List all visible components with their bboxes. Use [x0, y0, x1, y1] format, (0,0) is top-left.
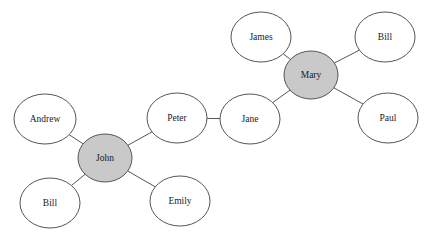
node-label-paul: Paul — [380, 113, 397, 123]
node-label-mary: Mary — [301, 70, 322, 80]
edge-james-mary — [283, 54, 290, 60]
node-james[interactable]: James — [231, 12, 291, 62]
network-graph: JamesBillMaryPaulJanePeterAndrewJohnBill… — [0, 0, 428, 240]
node-paul[interactable]: Paul — [358, 93, 418, 143]
node-label-peter: Peter — [167, 113, 187, 123]
node-jane[interactable]: Jane — [220, 94, 280, 144]
edge-bill_tr-mary — [334, 50, 359, 63]
node-john[interactable]: John — [78, 134, 132, 182]
node-andrew[interactable]: Andrew — [14, 94, 76, 144]
edge-andrew-john — [69, 135, 83, 144]
edge-john-bill_bl — [71, 174, 85, 185]
node-mary[interactable]: Mary — [284, 51, 338, 99]
node-bill_bl[interactable]: Bill — [20, 178, 80, 228]
node-peter[interactable]: Peter — [147, 93, 207, 143]
node-emily[interactable]: Emily — [150, 176, 210, 226]
node-bill_tr[interactable]: Bill — [355, 12, 415, 62]
node-label-bill_bl: Bill — [43, 198, 58, 208]
node-label-james: James — [249, 32, 273, 42]
nodes-layer: JamesBillMaryPaulJanePeterAndrewJohnBill… — [14, 12, 418, 228]
network-diagram-canvas: JamesBillMaryPaulJanePeterAndrewJohnBill… — [0, 0, 428, 240]
node-label-andrew: Andrew — [30, 114, 61, 124]
edge-john-emily — [128, 171, 156, 187]
node-label-jane: Jane — [242, 114, 259, 124]
node-label-emily: Emily — [168, 196, 191, 206]
edge-peter-john — [128, 132, 152, 145]
edge-mary-paul — [334, 88, 363, 104]
edge-mary-jane — [273, 90, 290, 103]
node-label-bill_tr: Bill — [378, 32, 393, 42]
node-label-john: John — [96, 153, 114, 163]
